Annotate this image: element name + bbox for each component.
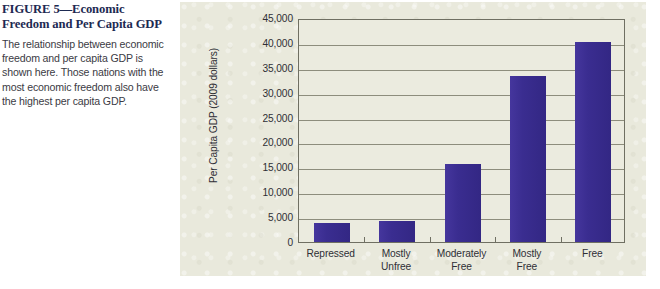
x-axis-tick-mark bbox=[364, 237, 365, 243]
y-axis-tick-label: 0 bbox=[233, 237, 293, 248]
figure-caption-column: FIGURE 5—Economic Freedom and Per Capita… bbox=[0, 0, 172, 289]
x-axis-tick-label: Free bbox=[547, 248, 637, 261]
x-axis-tick-mark bbox=[495, 237, 496, 243]
bar bbox=[379, 221, 415, 242]
y-axis-tick-label: 45,000 bbox=[233, 13, 293, 24]
y-axis-tick-label: 35,000 bbox=[233, 63, 293, 74]
y-axis-tick-label: 15,000 bbox=[233, 162, 293, 173]
y-axis-tick-label: 30,000 bbox=[233, 88, 293, 99]
y-axis-tick-label: 25,000 bbox=[233, 113, 293, 124]
bar bbox=[314, 223, 350, 242]
plot-area bbox=[298, 19, 625, 243]
figure-panel: Per Capita GDP (2009 dollars) 05,00010,0… bbox=[180, 2, 646, 276]
y-axis-tick-label: 20,000 bbox=[233, 137, 293, 148]
x-axis-tick-label-line: Free bbox=[547, 248, 637, 261]
y-axis-title: Per Capita GDP (2009 dollars) bbox=[208, 36, 219, 196]
bar bbox=[445, 164, 481, 242]
x-axis-tick-mark bbox=[430, 237, 431, 243]
y-axis-tick-label: 40,000 bbox=[233, 38, 293, 49]
bar bbox=[510, 76, 546, 242]
figure-description: The relationship between economic freedo… bbox=[2, 37, 168, 108]
y-axis-tick-label: 10,000 bbox=[233, 187, 293, 198]
x-axis-tick-mark bbox=[561, 237, 562, 243]
x-axis-tick-label-line: Free bbox=[482, 261, 572, 274]
y-axis-tick-label: 5,000 bbox=[233, 212, 293, 223]
bar bbox=[575, 42, 611, 242]
bar-chart: Per Capita GDP (2009 dollars) 05,00010,0… bbox=[180, 2, 646, 276]
figure-title: FIGURE 5—Economic Freedom and Per Capita… bbox=[2, 2, 170, 32]
